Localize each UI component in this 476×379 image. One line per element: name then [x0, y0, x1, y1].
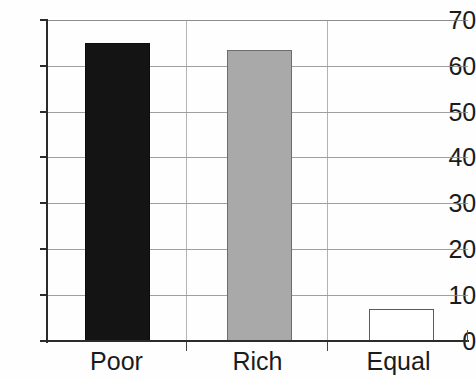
right-frame-line [467, 330, 468, 342]
category-divider-1 [186, 20, 187, 341]
bar-chart: 70 60 50 40 30 20 10 0 Poor Rich Equal [0, 0, 476, 379]
category-divider-2 [327, 20, 328, 341]
x-axis-line [45, 340, 469, 342]
bar-equal[interactable] [369, 309, 434, 341]
bar-poor[interactable] [85, 43, 150, 341]
gridline-70 [46, 20, 468, 21]
x-axis-category-label-rich: Rich [187, 348, 328, 376]
x-axis-category-label-poor: Poor [46, 348, 187, 376]
y-axis-line [46, 19, 48, 343]
bar-rich[interactable] [227, 50, 292, 341]
x-axis-category-label-equal: Equal [328, 348, 469, 376]
plot-area [46, 20, 468, 341]
